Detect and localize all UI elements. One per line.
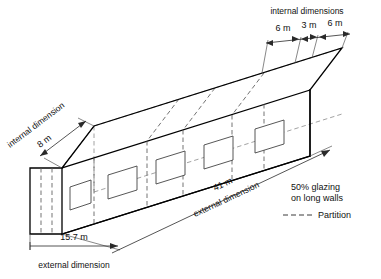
bottom-dim-caption: external dimension [38, 260, 110, 270]
legend-group: 50% glazing on long walls Partition [283, 182, 351, 220]
bottom-dim-label: 15.7 m [60, 232, 88, 242]
top-ext-line-1 [262, 40, 268, 73]
legend-glazing-line-2: on long walls [291, 193, 344, 203]
length-dim-arrow-right [321, 150, 330, 157]
top-ext-line-2 [295, 37, 301, 63]
left-ext-line-1 [44, 158, 62, 168]
bottom-dimension-group: 15.7 m external dimension [30, 232, 120, 270]
left-dim-arrow-start [40, 149, 48, 156]
end-wall-face [30, 168, 62, 234]
legend-glazing-line-1: 50% glazing [291, 182, 340, 192]
legend-partition-label: Partition [318, 210, 351, 220]
building-dimension-diagram: 6 m 3 m 6 m internal dimensions 8 m inte… [0, 0, 381, 279]
top-dim-label-3: 6 m [327, 18, 342, 28]
top-dim-label-2: 3 m [301, 20, 316, 30]
top-dim-caption: internal dimensions [270, 6, 343, 16]
left-dim-label: 8 m [35, 133, 53, 150]
isometric-building-figure: 6 m 3 m 6 m internal dimensions 8 m inte… [0, 0, 381, 279]
left-dim-arrow-end [78, 121, 86, 128]
top-dim-label-1: 6 m [275, 23, 290, 33]
top-dimension-arrows [266, 31, 350, 46]
